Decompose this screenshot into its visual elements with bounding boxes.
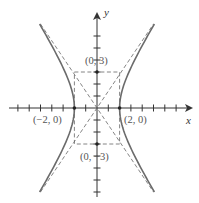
co-vertex-point-bottom	[95, 142, 99, 146]
vertex-label-right: (2, 0)	[124, 114, 147, 126]
co-vertex-label-top: (0, 3)	[85, 55, 108, 67]
vertex-point-right	[118, 106, 122, 110]
vertex-point-left	[73, 106, 77, 110]
co-vertex-label-bottom: (0, −3)	[80, 151, 109, 163]
y-axis-label: y	[103, 6, 109, 18]
co-vertex-point-top	[95, 70, 99, 74]
x-axis-label: x	[185, 114, 191, 126]
hyperbola-diagram: x y (0, 3) (0, −3) (−2, 0) (2, 0)	[0, 0, 199, 203]
vertex-label-left: (−2, 0)	[33, 114, 62, 126]
